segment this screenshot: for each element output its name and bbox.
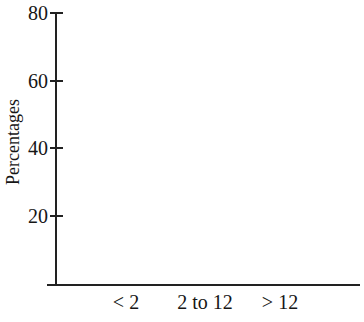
y-tick-label-60: 60 bbox=[14, 71, 48, 91]
x-category-label-2to12: 2 to 12 bbox=[177, 292, 233, 312]
y-axis-tick-80 bbox=[50, 12, 63, 14]
y-axis-tick-40 bbox=[50, 147, 63, 149]
y-axis-title: Percentages bbox=[4, 99, 22, 185]
y-tick-label-20: 20 bbox=[14, 206, 48, 226]
x-category-label-gt12: > 12 bbox=[262, 292, 298, 312]
y-tick-label-80: 80 bbox=[14, 3, 48, 23]
y-axis-tick-20 bbox=[50, 215, 63, 217]
x-category-label-lt2: < 2 bbox=[113, 292, 139, 312]
y-axis-line bbox=[55, 12, 57, 286]
chart-canvas: 80 60 40 20 Percentages < 2 2 to 12 > 12 bbox=[0, 0, 364, 322]
x-axis-line bbox=[47, 284, 360, 286]
y-axis-tick-60 bbox=[50, 80, 63, 82]
